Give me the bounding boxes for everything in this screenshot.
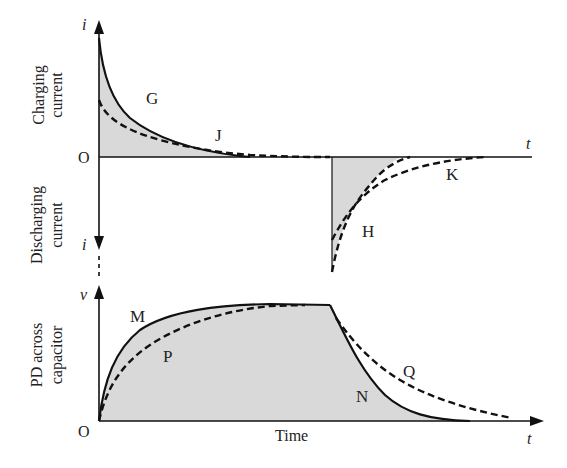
- arrow-down-icon: [94, 236, 104, 250]
- i-top-label: i: [82, 16, 86, 33]
- pd-label-line2: capacitor: [48, 325, 66, 384]
- origin-bottom-label: O: [78, 423, 90, 440]
- capacitor-diagram: i i v t t O O Time G J H K M P N Q Charg…: [0, 0, 567, 468]
- charging-label-line1: Charging: [30, 65, 48, 124]
- arrow-right-icon: [530, 416, 544, 426]
- label-G: G: [146, 89, 158, 108]
- label-H: H: [362, 222, 374, 241]
- label-N: N: [356, 387, 368, 406]
- arrow-up-icon: [94, 20, 104, 34]
- arrow-up-icon: [94, 285, 104, 299]
- pd-label-line1: PD across: [28, 323, 45, 387]
- t-bottom-label: t: [527, 430, 532, 447]
- label-M: M: [130, 307, 145, 326]
- discharging-current-shade: [332, 157, 400, 270]
- time-label: Time: [275, 427, 308, 444]
- label-K: K: [446, 165, 459, 184]
- discharging-label-line2: current: [48, 202, 65, 248]
- origin-top-label: O: [78, 149, 90, 166]
- i-bottom-label: i: [82, 236, 86, 253]
- label-P: P: [163, 347, 172, 366]
- charging-label-line2: current: [48, 72, 65, 118]
- label-Q: Q: [403, 362, 415, 381]
- charging-current-shade: [99, 38, 250, 157]
- label-J: J: [215, 126, 222, 145]
- discharging-label-line1: Discharging: [28, 186, 46, 264]
- t-top-label: t: [526, 135, 531, 152]
- v-label: v: [80, 286, 88, 303]
